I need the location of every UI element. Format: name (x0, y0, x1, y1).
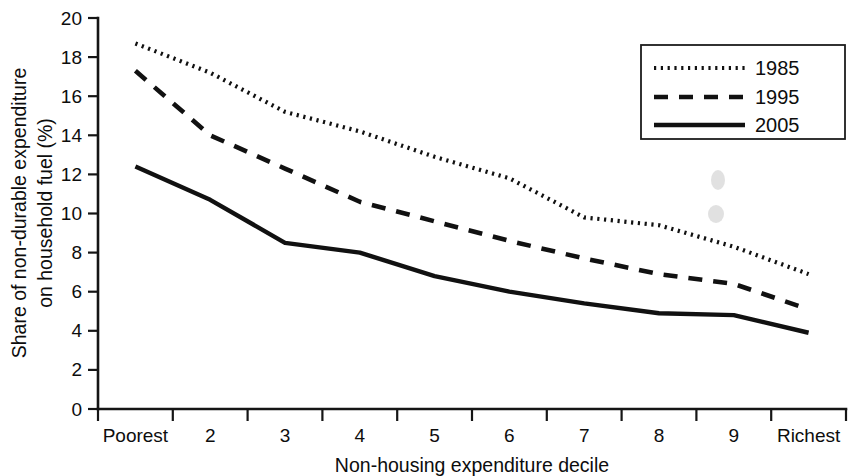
chart-figure: 0 2 4 6 8 10 12 14 16 18 20 Poorest 2 3 … (0, 0, 858, 476)
y-axis-title-line2: on household fuel (%) (34, 118, 56, 308)
x-axis-title: Non-housing expenditure decile (335, 454, 609, 476)
line-chart-canvas: 0 2 4 6 8 10 12 14 16 18 20 Poorest 2 3 … (0, 0, 858, 476)
x-tick-label-poorest: Poorest (103, 425, 169, 446)
legend-label-1995: 1995 (755, 86, 800, 108)
x-tick-label-8: 8 (654, 425, 665, 446)
x-tick-label-richest: Richest (777, 425, 841, 446)
y-tick-label-6: 6 (71, 281, 82, 302)
x-tick-label-6: 6 (504, 425, 515, 446)
y-axis-ticks (88, 18, 98, 409)
y-tick-label-4: 4 (71, 320, 82, 341)
y-tick-label-10: 10 (61, 203, 82, 224)
x-tick-label-2: 2 (205, 425, 216, 446)
y-tick-label-8: 8 (71, 242, 82, 263)
legend-label-1985: 1985 (755, 57, 800, 79)
series-line-2005 (135, 167, 808, 333)
y-tick-label-0: 0 (71, 399, 82, 420)
y-tick-label-12: 12 (61, 164, 82, 185)
x-tick-label-4: 4 (355, 425, 366, 446)
y-tick-label-2: 2 (71, 359, 82, 380)
legend-label-2005: 2005 (755, 114, 800, 136)
x-tick-label-7: 7 (579, 425, 590, 446)
x-tick-label-3: 3 (280, 425, 291, 446)
x-tick-label-5: 5 (429, 425, 440, 446)
y-axis-title-line1: Share of non-durable expenditure (8, 68, 30, 359)
scan-artifact (711, 170, 725, 190)
x-axis-ticks (98, 409, 846, 421)
scan-artifact (708, 205, 724, 223)
y-tick-label-16: 16 (61, 86, 82, 107)
chart-legend: 1985 1995 2005 (641, 45, 845, 139)
x-tick-label-9: 9 (729, 425, 740, 446)
y-tick-label-20: 20 (61, 8, 82, 29)
y-tick-label-14: 14 (61, 125, 83, 146)
y-tick-label-18: 18 (61, 47, 82, 68)
